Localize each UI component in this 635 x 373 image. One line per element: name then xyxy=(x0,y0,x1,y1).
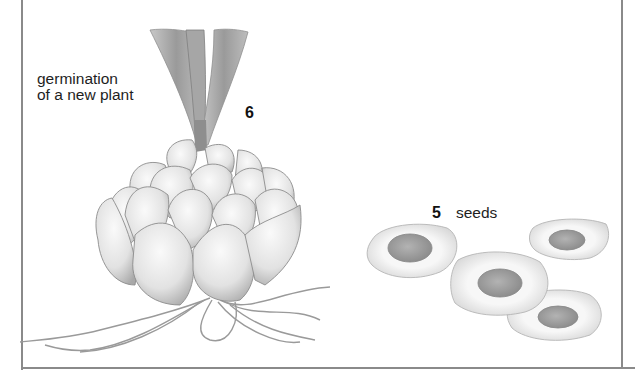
sprout-shoot xyxy=(150,29,248,152)
stage-number-6: 6 xyxy=(245,104,254,122)
caption-germination-line2: of a new plant xyxy=(37,87,134,103)
bulb-body xyxy=(96,140,301,305)
seed-3 xyxy=(451,252,548,315)
caption-germination: germination of a new plant xyxy=(37,71,134,103)
caption-seeds: seeds xyxy=(456,205,497,221)
seed-2 xyxy=(529,219,608,260)
stage-number-5: 5 xyxy=(432,204,441,222)
seed-cluster xyxy=(367,219,608,340)
caption-germination-line1: germination xyxy=(37,71,134,87)
seed-1 xyxy=(367,224,457,277)
illustration-canvas xyxy=(0,0,635,373)
